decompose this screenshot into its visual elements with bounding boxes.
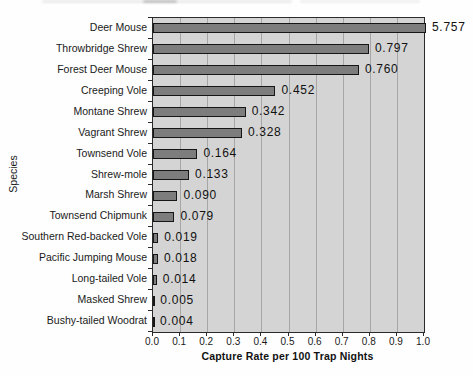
y-tick-mark (148, 17, 152, 18)
bar (153, 149, 197, 159)
y-tick-mark (148, 184, 152, 185)
category-label: Masked Shrew (0, 293, 147, 306)
x-tick-label: 0.3 (218, 336, 248, 347)
x-tick-label: 0.6 (300, 336, 330, 347)
y-tick-mark (148, 226, 152, 227)
x-tick-label: 1.0 (408, 336, 438, 347)
x-tick-mark (152, 332, 153, 336)
x-tick-label: 0.5 (273, 336, 303, 347)
category-label: Southern Red-backed Vole (0, 230, 147, 243)
category-label: Forest Deer Mouse (0, 63, 147, 76)
y-tick-mark (148, 101, 152, 102)
category-label: Townsend Vole (0, 147, 147, 160)
bar (153, 296, 155, 306)
category-label: Montane Shrew (0, 105, 147, 118)
bar (153, 44, 369, 54)
y-tick-mark (148, 268, 152, 269)
x-tick-label: 0.7 (327, 336, 357, 347)
bar (153, 275, 157, 285)
x-tick-label: 0.8 (354, 336, 384, 347)
x-tick-mark (423, 332, 424, 336)
scan-artifact (300, 0, 420, 3)
category-label: Marsh Shrew (0, 188, 147, 201)
gridline (370, 18, 371, 332)
plot-area (152, 17, 425, 333)
category-label: Creeping Vole (0, 84, 147, 97)
bar (153, 191, 177, 201)
x-tick-mark (288, 332, 289, 336)
category-axis: Deer MouseThrowbridge ShrewForest Deer M… (0, 17, 147, 331)
y-tick-mark (148, 122, 152, 123)
x-tick-label: 0.0 (137, 336, 167, 347)
category-label: Pacific Jumping Mouse (0, 251, 147, 264)
x-tick-mark (260, 332, 261, 336)
category-label: Vagrant Shrew (0, 126, 147, 139)
bar (153, 86, 275, 96)
x-tick-label: 0.2 (191, 336, 221, 347)
bar (153, 23, 426, 33)
x-tick-labels: 0.00.10.20.30.40.50.60.70.80.91.0 (0, 336, 473, 348)
category-label: Deer Mouse (0, 21, 147, 34)
x-tick-mark (369, 332, 370, 336)
y-tick-mark (148, 59, 152, 60)
bar-value-label: 5.757 (432, 20, 466, 34)
category-label: Bushy-tailed Woodrat (0, 314, 147, 327)
category-label: Long-tailed Vole (0, 272, 147, 285)
category-label: Townsend Chipmunk (0, 209, 147, 222)
y-tick-mark (148, 80, 152, 81)
bar (153, 233, 158, 243)
x-tick-mark (396, 332, 397, 336)
bar (153, 317, 155, 327)
x-tick-mark (206, 332, 207, 336)
scan-artifact (143, 0, 177, 3)
x-tick-label: 0.1 (164, 336, 194, 347)
y-tick-mark (148, 310, 152, 311)
bar (153, 212, 174, 222)
x-tick-label: 0.9 (381, 336, 411, 347)
y-tick-mark (148, 205, 152, 206)
bar-chart-figure: Deer MouseThrowbridge ShrewForest Deer M… (0, 0, 473, 376)
x-tick-mark (233, 332, 234, 336)
y-tick-mark (148, 289, 152, 290)
bar (153, 128, 242, 138)
x-tick-mark (179, 332, 180, 336)
gridline (397, 18, 398, 332)
bar (153, 107, 246, 117)
bar (153, 65, 359, 75)
x-tick-mark (342, 332, 343, 336)
x-tick-mark (315, 332, 316, 336)
x-axis-title: Capture Rate per 100 Trap Nights (152, 350, 423, 362)
x-tick-label: 0.4 (245, 336, 275, 347)
bar (153, 170, 189, 180)
bar (153, 254, 158, 264)
category-label: Throwbridge Shrew (0, 42, 147, 55)
y-tick-mark (148, 247, 152, 248)
category-label: Shrew-mole (0, 168, 147, 181)
y-tick-mark (148, 143, 152, 144)
y-tick-mark (148, 38, 152, 39)
y-tick-mark (148, 164, 152, 165)
y-axis-title: Species (7, 155, 19, 192)
